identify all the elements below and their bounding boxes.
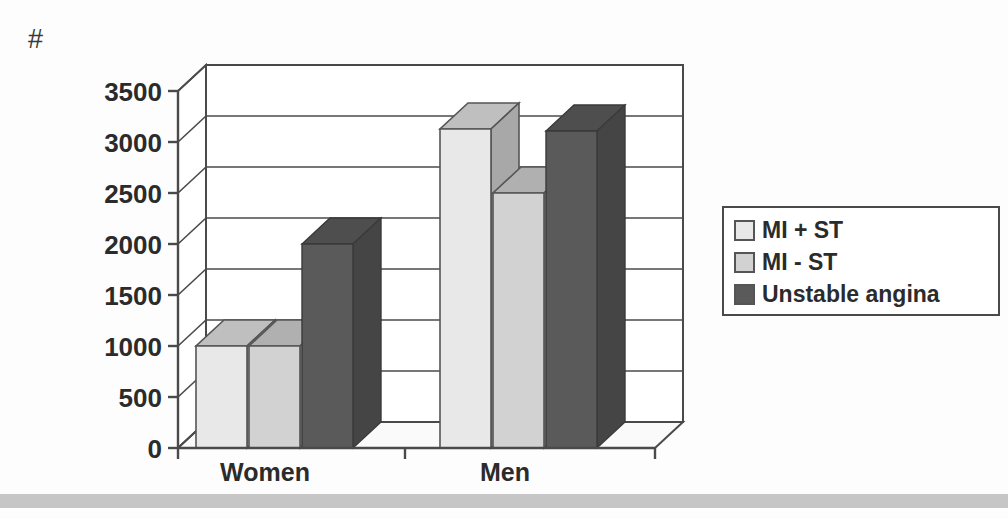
x-axis-line — [178, 448, 655, 459]
legend-item-mi-plus-st[interactable]: MI + ST — [734, 214, 990, 246]
legend-label-mi-plus-st: MI + ST — [762, 219, 843, 242]
legend: MI + ST MI - ST Unstable angina — [722, 206, 1000, 316]
legend-item-unstable-angina[interactable]: Unstable angina — [734, 278, 990, 310]
legend-label-unstable-angina: Unstable angina — [762, 283, 940, 306]
legend-swatch-unstable-angina — [734, 284, 755, 305]
legend-label-mi-minus-st: MI - ST — [762, 251, 837, 274]
legend-item-mi-minus-st[interactable]: MI - ST — [734, 246, 990, 278]
chart-container: # 3500 3000 2500 2000 1500 1000 500 0 Wo… — [0, 0, 1008, 519]
legend-swatch-mi-plus-st — [734, 220, 755, 241]
legend-swatch-mi-minus-st — [734, 252, 755, 273]
bar-women-unstable-angina — [302, 218, 381, 448]
y-axis-line — [168, 91, 178, 448]
footer-band-lower — [0, 508, 1008, 519]
bar-men-unstable-angina — [546, 105, 625, 448]
footer-band — [0, 494, 1008, 508]
